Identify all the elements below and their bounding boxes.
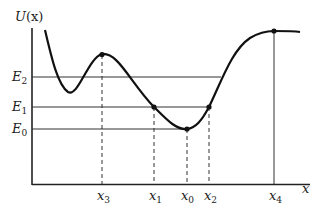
potential-energy-diagram: U(x) x E2 E1 E0 x3 x1 x0 x2 x4 <box>0 0 318 211</box>
x-label-x3: x3 <box>97 188 110 205</box>
point-x1 <box>151 104 156 109</box>
point-x3-peak <box>99 52 104 57</box>
energy-label-e0: E0 <box>11 121 28 138</box>
point-x0-min <box>184 126 189 131</box>
point-x4 <box>271 28 276 33</box>
x-label-x0: x0 <box>181 188 194 205</box>
energy-label-e1: E1 <box>11 99 27 116</box>
energy-label-e2: E2 <box>11 69 27 86</box>
x-label-x1: x1 <box>149 188 162 205</box>
potential-curve <box>45 30 300 129</box>
x-label-x2: x2 <box>204 188 217 205</box>
y-axis-label: U(x) <box>15 9 43 24</box>
x-axis-label: x <box>302 181 310 196</box>
x-label-x4: x4 <box>269 188 282 205</box>
point-x2 <box>206 104 211 109</box>
